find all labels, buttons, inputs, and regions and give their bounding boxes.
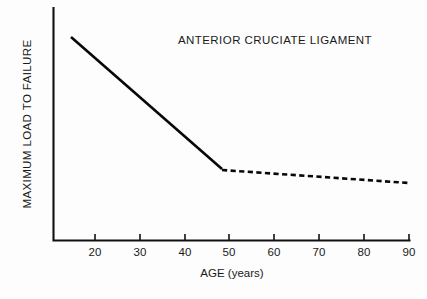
y-axis-title: MAXIMUM LOAD TO FAILURE: [21, 39, 33, 208]
chart-title: ANTERIOR CRUCIATE LIGAMENT: [178, 34, 372, 46]
x-tick-label: 80: [358, 246, 371, 258]
chart-figure: 20 30 40 50 60 70 80 90 AGE (years) MAXI…: [0, 0, 427, 299]
x-tick-label: 30: [134, 246, 147, 258]
x-tick-label: 40: [179, 246, 192, 258]
x-axis-title: AGE (years): [200, 267, 263, 279]
x-tick-labels: 20 30 40 50 60 70 80 90: [89, 246, 416, 258]
chart-canvas: 20 30 40 50 60 70 80 90 AGE (years) MAXI…: [0, 0, 427, 299]
series-line-measured: [71, 37, 222, 169]
x-tick-label: 60: [268, 246, 281, 258]
x-tick-marks: [95, 234, 409, 240]
x-tick-label: 90: [403, 246, 416, 258]
x-tick-label: 70: [313, 246, 326, 258]
x-tick-label: 20: [89, 246, 102, 258]
x-tick-label: 50: [223, 246, 236, 258]
series-line-extrapolated: [222, 170, 409, 183]
